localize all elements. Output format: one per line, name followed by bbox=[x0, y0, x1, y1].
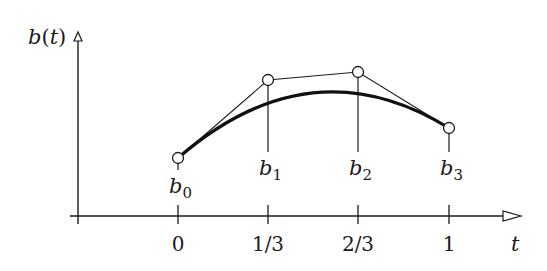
bezier-curve bbox=[178, 92, 449, 158]
x-ticks bbox=[178, 205, 449, 224]
tick-label-1-3: 1/3 bbox=[252, 232, 284, 256]
control-point-b2 bbox=[353, 67, 364, 78]
tick-label-2-3: 2/3 bbox=[342, 232, 374, 256]
control-point-b3 bbox=[444, 123, 455, 134]
control-point-b1 bbox=[263, 75, 274, 86]
tick-label-1: 1 bbox=[443, 232, 456, 256]
control-point-b0 bbox=[173, 153, 184, 164]
x-axis-label: t bbox=[511, 232, 520, 256]
label-b3: b3 bbox=[440, 156, 463, 184]
y-axis-label: b(t) bbox=[28, 25, 66, 49]
x-axis bbox=[70, 211, 521, 221]
control-point-labels: b0 b1 b2 b3 bbox=[169, 156, 463, 202]
control-points bbox=[173, 67, 455, 164]
label-b0: b0 bbox=[169, 174, 192, 202]
label-b1: b1 bbox=[259, 156, 282, 184]
control-polygon bbox=[178, 72, 449, 158]
tick-label-0: 0 bbox=[172, 232, 185, 256]
x-tick-labels: 0 1/3 2/3 1 bbox=[172, 232, 456, 256]
label-b2: b2 bbox=[349, 156, 372, 184]
y-axis bbox=[74, 32, 82, 224]
x-axis-arrow-icon bbox=[503, 211, 521, 221]
bezier-diagram: b0 b1 b2 b3 0 1/3 2/3 1 b(t) t bbox=[0, 0, 547, 271]
y-axis-arrow-icon bbox=[74, 32, 82, 41]
